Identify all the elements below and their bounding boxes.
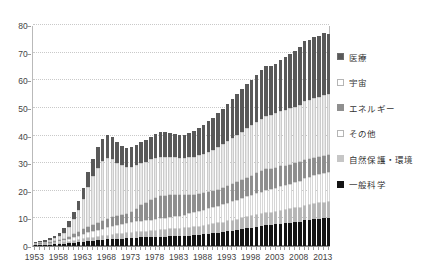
bar-1974: [135, 145, 139, 246]
bar-segment: [82, 199, 86, 229]
bar-segment: [312, 37, 316, 98]
bar-segment: [173, 229, 177, 236]
x-tick-mark: [193, 247, 194, 250]
bar-segment: [284, 166, 288, 185]
bar-1981: [168, 133, 172, 246]
bar-segment: [211, 224, 215, 233]
bar-segment: [235, 94, 239, 135]
bar-segment: [139, 221, 143, 232]
bar-1997: [245, 84, 249, 246]
bar-segment: [173, 236, 177, 246]
bar-segment: [154, 219, 158, 231]
bar-segment: [139, 142, 143, 163]
bar-segment: [284, 185, 288, 210]
bar-segment: [298, 181, 302, 208]
bar-segment: [202, 154, 206, 194]
bar-segment: [187, 236, 191, 246]
legend-item[interactable]: その他: [337, 121, 424, 147]
bar-segment: [159, 218, 163, 230]
bar-segment: [308, 40, 312, 100]
bar-2008: [298, 47, 302, 246]
bar-segment: [211, 207, 215, 224]
bar-segment: [308, 205, 312, 220]
x-tick-mark: [241, 247, 242, 250]
x-tick-mark: [227, 247, 228, 250]
bar-segment: [216, 190, 220, 206]
bar-segment: [221, 144, 225, 188]
bar-segment: [135, 238, 139, 246]
bar-segment: [250, 228, 254, 246]
bar-segment: [120, 215, 124, 224]
bar-segment: [293, 208, 297, 222]
bar-segment: [72, 243, 76, 246]
bar-segment: [101, 229, 105, 237]
bar-segment: [159, 230, 163, 237]
bar-segment: [269, 225, 273, 246]
bar-segment: [192, 195, 196, 213]
bar-segment: [317, 36, 321, 96]
x-tick-mark: [289, 247, 290, 250]
legend-swatch-icon: [337, 130, 344, 137]
bar-segment: [197, 227, 201, 235]
x-tick-mark: [82, 247, 83, 250]
bar-segment: [139, 163, 143, 206]
bar-segment: [173, 195, 177, 216]
bar-segment: [226, 186, 230, 203]
legend-swatch-icon: [337, 79, 344, 86]
bar-segment: [111, 137, 115, 159]
bar-segment: [163, 218, 167, 230]
bar-segment: [250, 176, 254, 195]
legend-item[interactable]: 医療: [337, 44, 424, 70]
bar-segment: [327, 202, 331, 218]
x-tick-mark: [126, 247, 127, 250]
bar-segment: [298, 47, 302, 104]
x-tick-mark: [63, 247, 64, 250]
bar-2011: [312, 37, 316, 246]
x-tick-label: 1973: [121, 252, 140, 262]
bar-2006: [288, 54, 292, 246]
bar-segment: [96, 230, 100, 237]
legend-swatch-icon: [337, 53, 344, 60]
bar-1985: [187, 133, 191, 246]
bar-1962: [77, 201, 81, 246]
legend-item[interactable]: 自然保護・環境: [337, 146, 424, 172]
bar-segment: [67, 243, 71, 246]
bar-segment: [202, 125, 206, 154]
y-tick-mark: [26, 247, 31, 248]
x-tick-mark: [231, 247, 232, 250]
bar-segment: [327, 218, 331, 246]
x-tick-mark: [92, 247, 93, 250]
x-axis: 1953195819631968197319781983198819931998…: [32, 247, 330, 275]
bar-segment: [202, 210, 206, 226]
bar-segment: [111, 239, 115, 246]
x-tick-label: 1968: [97, 252, 116, 262]
bar-segment: [207, 225, 211, 234]
legend-item[interactable]: 一般科学: [337, 172, 424, 198]
bar-segment: [274, 188, 278, 212]
legend-item[interactable]: エネルギー: [337, 95, 424, 121]
y-tick-mark: [26, 54, 31, 55]
x-tick-label: 1978: [145, 252, 164, 262]
bar-segment: [101, 221, 105, 229]
bar-segment: [226, 104, 230, 141]
bar-segment: [67, 227, 71, 237]
legend-label: エネルギー: [349, 102, 395, 114]
bar-segment: [163, 230, 167, 237]
bar-segment: [284, 223, 288, 246]
bar-1957: [53, 236, 57, 246]
bar-series-container: [33, 26, 329, 246]
bar-segment: [235, 135, 239, 182]
bar-segment: [106, 227, 110, 235]
legend-item[interactable]: 宇宙: [337, 70, 424, 96]
x-tick-mark: [198, 247, 199, 250]
x-tick-mark: [116, 247, 117, 250]
bar-segment: [250, 195, 254, 217]
bar-segment: [231, 138, 235, 184]
bar-1968: [106, 135, 110, 246]
x-tick-mark: [256, 247, 257, 250]
bar-1995: [235, 94, 239, 246]
bar-segment: [125, 214, 129, 223]
bar-segment: [274, 212, 278, 225]
bar-segment: [240, 229, 244, 246]
bar-segment: [221, 188, 225, 204]
